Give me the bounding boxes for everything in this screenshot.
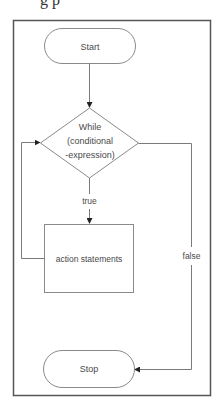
- stop-node: Stop: [44, 351, 135, 388]
- flowchart-diagram: Start While (conditional -expression) tr…: [0, 0, 221, 411]
- condition-label-line-2: (conditional: [67, 136, 113, 146]
- condition-label-line-3: -expression): [65, 150, 115, 160]
- action-node: action statements: [45, 225, 134, 293]
- condition-node: While (conditional -expression): [41, 108, 139, 178]
- edge-condition-to-stop-lower: [135, 265, 192, 370]
- condition-label-line-1: While: [79, 122, 102, 132]
- start-node: Start: [45, 29, 136, 64]
- stop-label: Stop: [80, 364, 99, 374]
- false-edge-label: false: [183, 251, 201, 261]
- edge-condition-to-stop-upper: [139, 144, 192, 248]
- action-label: action statements: [56, 254, 123, 264]
- start-label: Start: [80, 42, 100, 52]
- outer-frame: [14, 21, 211, 396]
- true-edge-label: true: [82, 196, 97, 206]
- edge-action-loop-back: [22, 143, 45, 259]
